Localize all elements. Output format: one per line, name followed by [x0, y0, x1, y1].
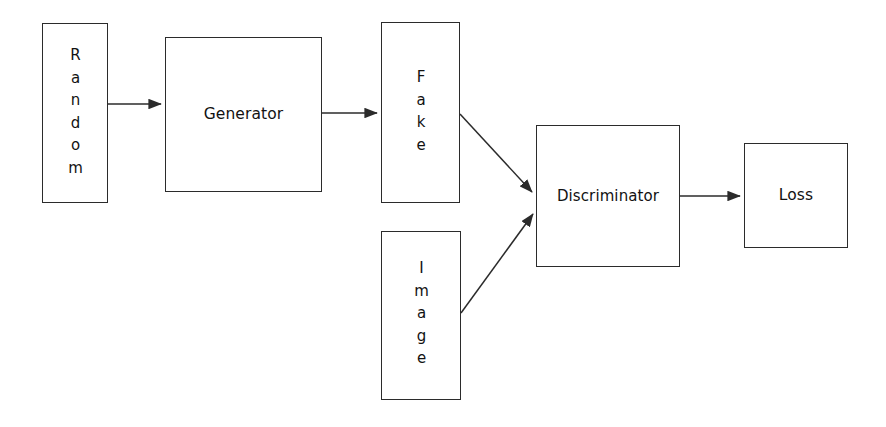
node-fake[interactable]: Fake	[381, 22, 460, 203]
edge-fake-to-discriminator	[460, 114, 532, 192]
node-loss-label: Loss	[779, 187, 813, 204]
node-discriminator[interactable]: Discriminator	[536, 125, 680, 267]
diagram-canvas: Random Generator Fake Image Discriminato…	[0, 0, 886, 427]
edge-image-to-discriminator	[461, 214, 533, 313]
node-random[interactable]: Random	[42, 23, 108, 203]
node-generator[interactable]: Generator	[165, 37, 322, 192]
node-random-label: Random	[68, 46, 83, 181]
node-discriminator-label: Discriminator	[557, 188, 659, 204]
node-generator-label: Generator	[204, 106, 284, 123]
node-image-label: Image	[414, 259, 429, 372]
node-image[interactable]: Image	[381, 231, 461, 400]
node-fake-label: Fake	[413, 68, 428, 158]
node-loss[interactable]: Loss	[744, 143, 848, 248]
